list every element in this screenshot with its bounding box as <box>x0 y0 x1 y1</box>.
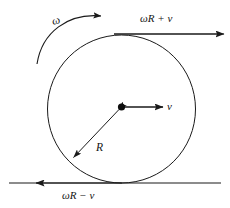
bottom-velocity-label: ωR − v <box>62 190 94 201</box>
top-velocity-label: ωR + v <box>140 13 172 24</box>
diagram-canvas <box>0 0 230 208</box>
radius-label: R <box>96 142 103 154</box>
rolling-wheel-diagram: ω ωR + v ωR − v v R <box>0 0 230 208</box>
wheel-center-dot <box>118 103 125 110</box>
center-velocity-label: v <box>167 101 172 112</box>
